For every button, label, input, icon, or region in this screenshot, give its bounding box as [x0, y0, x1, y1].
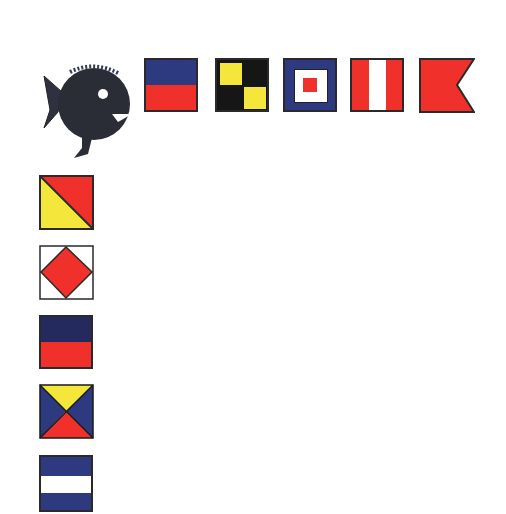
signal-flag-e-left: [39, 315, 93, 369]
signal-flag-o: [39, 175, 94, 230]
signal-flag-b: [419, 58, 475, 113]
pufferfish-icon: [40, 62, 135, 160]
signal-flag-f: [39, 245, 94, 300]
signal-flag-z: [39, 384, 94, 439]
signal-flag-red-white-red: [350, 58, 404, 112]
signal-flag-e-top: [144, 58, 198, 112]
signal-flag-l: [215, 58, 269, 112]
signal-flag-w: [283, 58, 337, 112]
signal-flag-j: [39, 455, 93, 512]
